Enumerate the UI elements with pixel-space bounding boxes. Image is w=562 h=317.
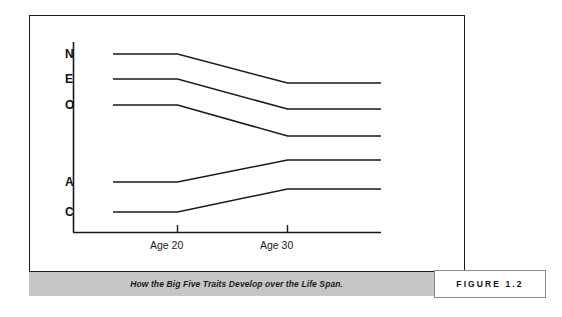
figure-caption: How the Big Five Traits Develop over the… xyxy=(130,279,343,289)
trend-line-A xyxy=(113,160,381,182)
trait-label-e: E xyxy=(65,73,73,85)
trait-label-c: C xyxy=(65,206,74,218)
trait-label-a: A xyxy=(65,176,74,188)
chart-svg xyxy=(29,15,465,272)
xtick-label-age20: Age 20 xyxy=(150,239,183,251)
figure-tag-text: FIGURE 1.2 xyxy=(456,279,523,289)
caption-bar: How the Big Five Traits Develop over the… xyxy=(29,272,465,296)
xtick-label-age30: Age 30 xyxy=(260,239,293,251)
trait-label-o: O xyxy=(65,99,75,111)
trend-line-C xyxy=(113,189,381,212)
figure-tag-box: FIGURE 1.2 xyxy=(434,270,546,298)
chart-plot-area xyxy=(29,15,465,272)
figure-page: N E O A C Age 20 Age 30 How the Big Five… xyxy=(0,0,562,317)
trait-label-n: N xyxy=(65,48,74,60)
